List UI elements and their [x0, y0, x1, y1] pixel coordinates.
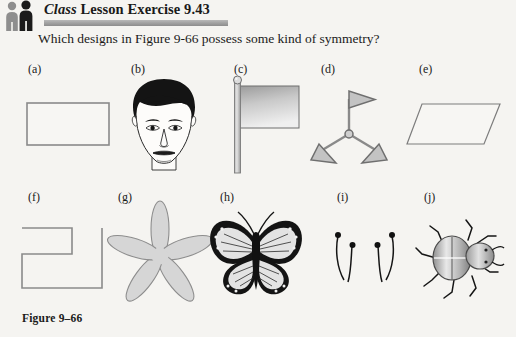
page-title-emphasis: Class [44, 1, 77, 17]
figure-i-paired-antennae [324, 222, 406, 294]
page-title: Class Lesson Exercise 9.43 [44, 1, 210, 18]
item-label-g: (g) [118, 190, 132, 205]
figure-h-butterfly [202, 204, 310, 300]
question-text: Which designs in Figure 9-66 possess som… [38, 31, 380, 47]
header-rule [44, 20, 228, 26]
figure-caption: Figure 9–66 [22, 312, 82, 324]
item-label-j: (j) [424, 190, 435, 205]
figure-c-flag-on-pole [228, 74, 304, 174]
header: Class Lesson Exercise 9.43 [0, 0, 516, 26]
exercise-page: Class Lesson Exercise 9.43 Which designs… [0, 0, 516, 337]
figure-f-open-zigzag-polygon [14, 224, 110, 292]
item-label-a: (a) [28, 62, 41, 77]
figure-d-three-arm-pinwheel [303, 82, 395, 172]
two-people-icon [3, 1, 39, 31]
figure-b-mans-face [116, 76, 212, 172]
page-title-rest: Lesson Exercise 9.43 [77, 1, 210, 17]
item-label-h: (h) [220, 190, 234, 205]
item-label-i: (i) [337, 190, 348, 205]
item-label-f: (f) [28, 190, 40, 205]
figure-g-five-petal-flower [110, 206, 210, 300]
item-label-d: (d) [321, 62, 335, 77]
item-label-e: (e) [419, 62, 432, 77]
item-label-b: (b) [131, 62, 145, 77]
figure-j-beetle [414, 214, 508, 300]
figure-e-parallelogram-outline [406, 100, 506, 152]
figure-a-rectangle-outline [26, 102, 114, 150]
